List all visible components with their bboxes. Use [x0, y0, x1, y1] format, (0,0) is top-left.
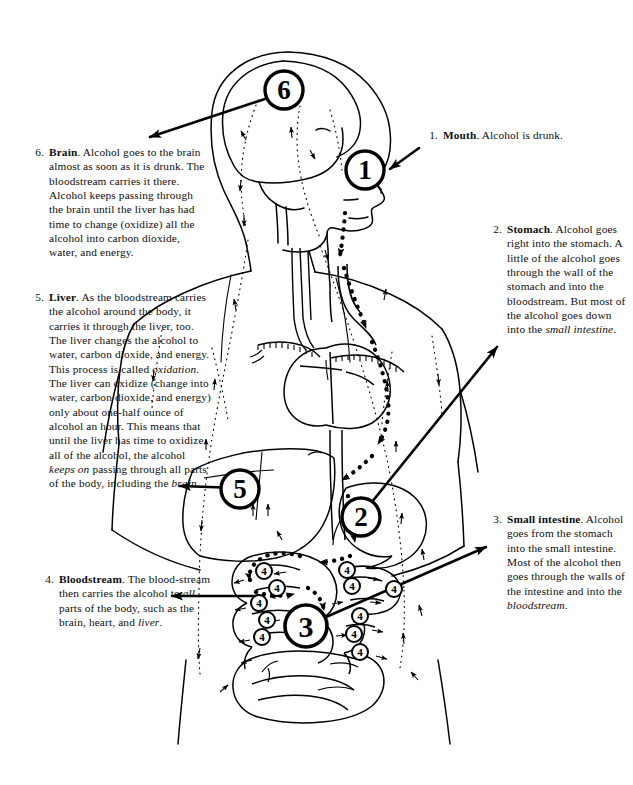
svg-text:4: 4 — [351, 628, 357, 640]
svg-text:4: 4 — [357, 646, 363, 658]
svg-text:1: 1 — [358, 155, 372, 185]
callout-bloodstream: 4. Bloodstream. The blood-stream then ca… — [38, 572, 218, 629]
bloodstream-marker-4[interactable]: 4 — [269, 580, 285, 596]
bloodstream-marker-4[interactable]: 4 — [259, 612, 275, 628]
callout-mouth-number: 1. — [422, 128, 438, 142]
organ-large-intestine — [233, 651, 384, 723]
callout-stomach-term: Stomach — [507, 223, 550, 235]
callout-small-intestine-text: . Alcohol goes from the stomach into the… — [507, 513, 625, 597]
callout-brain-number: 6. — [28, 145, 44, 159]
callout-liver-term: Liver — [49, 291, 76, 303]
callout-bloodstream-term: Bloodstream — [59, 573, 122, 585]
callout-small-intestine-body: Small intestine. Alcohol goes from the s… — [507, 512, 628, 612]
bloodstream-marker-4[interactable]: 4 — [386, 581, 402, 597]
callout-stomach-number: 2. — [486, 222, 502, 236]
callout-liver-number: 5. — [28, 290, 44, 304]
callout-brain-text: . Alcohol goes to the brain almost as so… — [49, 146, 205, 258]
callout-liver-body: Liver. As the bloodstream carries the al… — [49, 290, 214, 491]
marker-3[interactable]: 3 — [285, 605, 327, 647]
marker-6[interactable]: 6 — [265, 71, 303, 109]
callout-stomach-text-after: . — [613, 323, 616, 335]
svg-text:4: 4 — [256, 597, 262, 609]
callout-bloodstream-text-mid: parts of the body, such as the brain, he… — [59, 602, 194, 628]
marker-2[interactable]: 2 — [342, 498, 380, 536]
callout-liver: 5. Liver. As the bloodstream carries the… — [28, 290, 214, 491]
bloodstream-marker-4[interactable]: 4 — [254, 629, 270, 645]
callout-liver-text-mid: . The liver can oxidize (change into wat… — [49, 363, 211, 461]
bloodstream-marker-4[interactable]: 4 — [352, 608, 368, 624]
callout-stomach: 2. Stomach. Alcohol goes right into the … — [486, 222, 628, 337]
callout-bloodstream-body: Bloodstream. The blood-stream then carri… — [59, 572, 218, 629]
callout-bloodstream-emphasis-all: all — [183, 587, 195, 599]
marker-1[interactable]: 1 — [346, 151, 384, 189]
arrow-to-mouth-marker — [390, 148, 419, 169]
bloodstream-marker-4[interactable]: 4 — [346, 626, 362, 642]
callout-stomach-emphasis: small intestine — [545, 323, 613, 335]
svg-text:4: 4 — [259, 631, 265, 643]
callout-bloodstream-emphasis-liver: liver — [138, 616, 159, 628]
callout-brain-body: Brain. Alcohol goes to the brain almost … — [49, 145, 210, 260]
callout-liver-text-after: . — [197, 477, 200, 489]
bloodstream-marker-4[interactable]: 4 — [352, 644, 368, 660]
svg-text:2: 2 — [354, 502, 368, 532]
bloodstream-marker-4[interactable]: 4 — [344, 578, 360, 594]
callout-mouth: 1. Mouth. Alcohol is drunk. — [422, 128, 622, 142]
bloodstream-marker-4[interactable]: 4 — [256, 563, 272, 579]
callout-liver-emphasis-keeps-on: keeps on — [49, 463, 89, 475]
callout-bloodstream-number: 4. — [38, 572, 54, 586]
callout-mouth-term: Mouth — [443, 129, 476, 141]
bloodstream-marker-4[interactable]: 4 — [251, 595, 267, 611]
organ-esophagus-trachea — [292, 248, 314, 350]
callout-stomach-body: Stomach. Alcohol goes right into the sto… — [507, 222, 628, 337]
callout-liver-emphasis-oxidation: oxidation — [152, 363, 196, 375]
svg-text:4: 4 — [261, 565, 267, 577]
callout-small-intestine: 3. Small intestine. Alcohol goes from th… — [486, 512, 628, 612]
callout-brain: 6. Brain. Alcohol goes to the brain almo… — [28, 145, 210, 260]
callout-small-intestine-emphasis: bloodstream — [507, 599, 565, 611]
diagram-page: 6 1 5 2 3 4 — [0, 0, 633, 785]
callout-mouth-body: Mouth. Alcohol is drunk. — [443, 128, 622, 142]
bloodstream-marker-4[interactable]: 4 — [339, 562, 355, 578]
svg-text:5: 5 — [233, 474, 247, 504]
callout-brain-term: Brain — [49, 146, 77, 158]
svg-text:4: 4 — [349, 580, 355, 592]
callout-small-intestine-term: Small intestine — [507, 513, 580, 525]
svg-text:3: 3 — [299, 610, 314, 643]
callout-stomach-text: . Alcohol goes right into the stomach. A… — [507, 223, 625, 335]
svg-text:4: 4 — [391, 583, 397, 595]
svg-text:4: 4 — [344, 564, 350, 576]
callout-small-intestine-text-after: . — [565, 599, 568, 611]
arrow-to-brain-text — [150, 93, 283, 137]
callout-bloodstream-text-after: . — [159, 616, 162, 628]
svg-text:4: 4 — [264, 614, 270, 626]
callout-liver-emphasis-brain: brain — [172, 477, 197, 489]
svg-text:4: 4 — [357, 610, 363, 622]
callout-small-intestine-number: 3. — [486, 512, 502, 526]
callout-mouth-text: . Alcohol is drunk. — [476, 129, 563, 141]
organ-heart-and-vessels — [250, 264, 404, 540]
svg-text:6: 6 — [277, 75, 291, 105]
svg-text:4: 4 — [274, 582, 280, 594]
marker-5[interactable]: 5 — [221, 470, 259, 508]
